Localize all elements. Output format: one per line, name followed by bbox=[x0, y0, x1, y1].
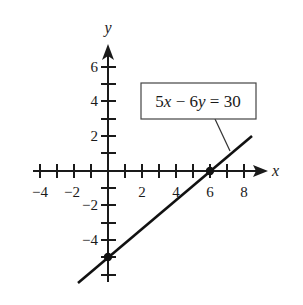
equation-label: 5x − 6y = 30 bbox=[155, 92, 240, 111]
y-intercept-point bbox=[104, 253, 112, 261]
x-tick-label: 8 bbox=[240, 184, 248, 200]
equation-line bbox=[78, 136, 252, 283]
linear-equation-graph: x −4 −2 2 4 6 8 y 6 bbox=[0, 0, 303, 305]
y-tick-label: 6 bbox=[91, 59, 99, 75]
y-tick-label: 4 bbox=[91, 93, 99, 109]
x-tick-label: −2 bbox=[64, 184, 80, 200]
y-axis: y 6 4 2 −2 −4 bbox=[82, 19, 116, 282]
y-tick-label: −2 bbox=[82, 197, 98, 213]
x-intercept-point bbox=[206, 167, 214, 175]
x-axis: x −4 −2 2 4 6 8 bbox=[32, 162, 279, 200]
y-tick-labels: 6 4 2 −2 −4 bbox=[82, 59, 98, 248]
x-tick-labels: −4 −2 2 4 6 8 bbox=[32, 184, 248, 200]
x-axis-label: x bbox=[271, 162, 279, 179]
y-axis-label: y bbox=[102, 19, 112, 37]
x-tick-label: −4 bbox=[32, 184, 48, 200]
callout-leader bbox=[215, 119, 230, 151]
x-tick-label: 6 bbox=[206, 184, 214, 200]
equation-callout: 5x − 6y = 30 bbox=[141, 83, 256, 151]
y-tick-label: −4 bbox=[82, 232, 98, 248]
y-tick-label: 2 bbox=[91, 128, 99, 144]
x-tick-label: 2 bbox=[138, 184, 146, 200]
